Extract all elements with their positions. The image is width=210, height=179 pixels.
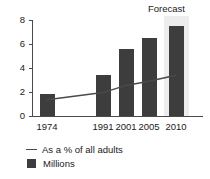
chart-legend: As a % of all adults Millions: [26, 142, 206, 170]
line-swatch-icon: [26, 149, 37, 150]
chart-container: Forecast 02468 19741991200120052010 As a…: [0, 0, 210, 179]
legend-label-millions: Millions: [43, 158, 75, 169]
legend-item-percent: As a % of all adults: [26, 142, 206, 156]
x-tick-label-1974: 1974: [32, 121, 62, 132]
x-tick-label-2010: 2010: [161, 121, 191, 132]
plot-area: Forecast 02468 19741991200120052010: [0, 0, 210, 136]
line-series: [0, 0, 210, 136]
square-swatch-icon: [27, 159, 36, 168]
legend-label-percent: As a % of all adults: [42, 144, 123, 155]
x-tick-label-2005: 2005: [134, 121, 164, 132]
legend-item-millions: Millions: [26, 156, 206, 170]
